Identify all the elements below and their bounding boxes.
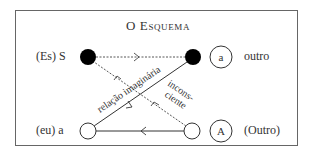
node-s (80, 49, 96, 65)
schema-l-graph: a A relação imaginária incons- ciente (0, 0, 316, 163)
arrow-head-icon (151, 102, 159, 106)
arrow-head-icon (126, 101, 132, 108)
circle-a-letter: a (219, 51, 224, 63)
arrow-head-icon (114, 76, 121, 80)
node-big-a (184, 123, 200, 139)
label-imaginary-relation: relação imaginária (95, 63, 163, 114)
node-a-prime (185, 49, 201, 65)
circle-big-a-letter: A (217, 125, 225, 137)
node-a (80, 123, 96, 139)
